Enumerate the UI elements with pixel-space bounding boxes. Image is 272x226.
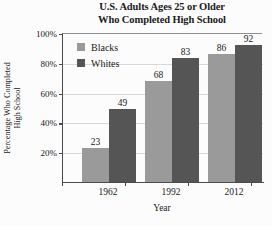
x-tick-label-1992: 1992 bbox=[162, 187, 181, 197]
bar-group-2012: 86 92 bbox=[208, 33, 262, 182]
y-tick-label: 20% bbox=[41, 148, 58, 158]
bar-1992-whites[interactable]: 83 bbox=[172, 58, 199, 182]
y-axis-title-line-2: High School bbox=[13, 62, 23, 154]
bar-group-1992: 68 83 bbox=[145, 33, 199, 182]
legend-item-whites[interactable]: Whites bbox=[77, 55, 119, 71]
bar-value-label: 23 bbox=[91, 137, 101, 147]
bar-2012-blacks[interactable]: 86 bbox=[208, 54, 235, 182]
legend-label: Whites bbox=[91, 58, 119, 69]
y-tick-label: 40% bbox=[41, 118, 58, 128]
y-tick-mark bbox=[59, 34, 63, 35]
bar-1962-blacks[interactable]: 23 bbox=[82, 148, 109, 182]
bar-1992-blacks[interactable]: 68 bbox=[145, 81, 172, 182]
x-axis-line bbox=[62, 182, 264, 183]
bar-value-label: 86 bbox=[217, 43, 227, 53]
chart-title: U.S. Adults Ages 25 or Older Who Complet… bbox=[62, 1, 262, 26]
legend-swatch-icon bbox=[77, 43, 85, 51]
y-tick-mark bbox=[59, 123, 63, 124]
chart-title-line-1: U.S. Adults Ages 25 or Older bbox=[62, 1, 262, 14]
y-tick-mark bbox=[59, 64, 63, 65]
x-tick-mark bbox=[251, 182, 252, 186]
y-tick-label: 80% bbox=[41, 59, 58, 69]
bar-value-label: 49 bbox=[118, 98, 128, 108]
bar-value-label: 68 bbox=[154, 70, 164, 80]
x-tick-mark bbox=[62, 182, 63, 186]
legend-label: Blacks bbox=[91, 42, 118, 53]
x-tick-mark bbox=[188, 182, 189, 186]
legend-swatch-icon bbox=[77, 59, 85, 67]
bar-value-label: 92 bbox=[244, 34, 254, 44]
plot-area: 100% 80% 60% 40% 20% 23 49 68 83 bbox=[62, 33, 262, 182]
legend-item-blacks[interactable]: Blacks bbox=[77, 39, 119, 55]
bar-value-label: 83 bbox=[181, 47, 191, 57]
y-tick-mark bbox=[59, 153, 63, 154]
y-tick-label: 60% bbox=[41, 89, 58, 99]
x-tick-label-2012: 2012 bbox=[225, 187, 244, 197]
x-tick-mark bbox=[125, 182, 126, 186]
bar-1962-whites[interactable]: 49 bbox=[109, 109, 136, 182]
y-axis-title-line-1: Percentage Who Completed bbox=[3, 62, 13, 154]
legend: Blacks Whites bbox=[77, 39, 119, 71]
y-tick-mark bbox=[59, 94, 63, 95]
x-axis-title: Year bbox=[62, 203, 262, 213]
x-tick-label-1962: 1962 bbox=[99, 187, 118, 197]
chart-title-line-2: Who Completed High School bbox=[62, 14, 262, 27]
y-tick-label: 100% bbox=[36, 29, 57, 39]
bar-2012-whites[interactable]: 92 bbox=[235, 45, 262, 182]
y-axis-title: Percentage Who Completed High School bbox=[0, 33, 26, 183]
